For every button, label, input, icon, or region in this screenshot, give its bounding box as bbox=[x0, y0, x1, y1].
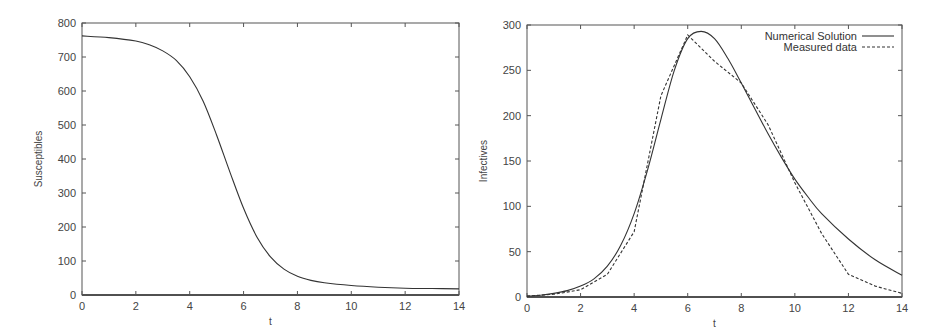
susceptibles-chart: 024681012140100200300400500600700800tSus… bbox=[33, 17, 465, 327]
y-tick-label: 0 bbox=[515, 291, 521, 303]
y-tick-label: 250 bbox=[503, 64, 521, 76]
y-axis-label: Infectives bbox=[478, 140, 489, 182]
numerical-solution-line bbox=[527, 31, 902, 296]
x-tick-label: 12 bbox=[399, 300, 411, 312]
x-tick-label: 4 bbox=[187, 300, 193, 312]
y-axis-label: Susceptibles bbox=[33, 131, 44, 188]
y-tick-label: 200 bbox=[503, 110, 521, 122]
infectives-chart: 02468101214050100150200250300tInfectives… bbox=[478, 19, 908, 329]
x-tick-label: 6 bbox=[241, 300, 247, 312]
x-tick-label: 12 bbox=[842, 302, 854, 314]
y-tick-label: 150 bbox=[503, 155, 521, 167]
x-tick-label: 2 bbox=[578, 302, 584, 314]
y-tick-label: 200 bbox=[58, 221, 76, 233]
y-tick-label: 100 bbox=[503, 200, 521, 212]
x-tick-label: 10 bbox=[789, 302, 801, 314]
measured-data-line bbox=[527, 35, 902, 296]
x-tick-label: 8 bbox=[294, 300, 300, 312]
y-tick-label: 700 bbox=[58, 51, 76, 63]
y-tick-label: 600 bbox=[58, 85, 76, 97]
y-tick-label: 800 bbox=[58, 17, 76, 29]
figure-canvas: 024681012140100200300400500600700800tSus… bbox=[0, 0, 944, 336]
y-tick-label: 300 bbox=[58, 187, 76, 199]
x-tick-label: 6 bbox=[685, 302, 691, 314]
y-tick-label: 500 bbox=[58, 119, 76, 131]
plot-frame bbox=[82, 23, 459, 295]
y-tick-label: 400 bbox=[58, 153, 76, 165]
legend: Numerical SolutionMeasured data bbox=[765, 30, 894, 53]
x-tick-label: 4 bbox=[631, 302, 637, 314]
x-tick-label: 8 bbox=[738, 302, 744, 314]
x-tick-label: 10 bbox=[345, 300, 357, 312]
x-tick-label: 0 bbox=[524, 302, 530, 314]
legend-label: Measured data bbox=[784, 41, 858, 53]
y-tick-label: 100 bbox=[58, 255, 76, 267]
x-tick-label: 14 bbox=[896, 302, 908, 314]
x-tick-label: 0 bbox=[79, 300, 85, 312]
susceptibles-line bbox=[82, 36, 459, 289]
y-tick-label: 300 bbox=[503, 19, 521, 31]
x-axis-label: t bbox=[713, 318, 716, 329]
y-tick-label: 50 bbox=[509, 246, 521, 258]
plot-frame bbox=[527, 25, 902, 297]
x-tick-label: 14 bbox=[453, 300, 465, 312]
x-axis-label: t bbox=[269, 316, 272, 327]
y-tick-label: 0 bbox=[70, 289, 76, 301]
x-tick-label: 2 bbox=[133, 300, 139, 312]
